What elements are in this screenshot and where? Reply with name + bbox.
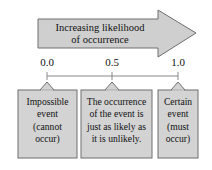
impossible-event-line-1: Impossible: [18, 96, 77, 108]
pointer-triangle-right: [171, 82, 185, 90]
impossible-event-line-2: event: [18, 108, 77, 120]
equally-likely-event-line-3: just as likely as: [81, 121, 152, 133]
tick-label-5: 0.5: [96, 56, 128, 68]
certain-event-line-2: event: [158, 108, 198, 120]
impossible-event-line-4: occur): [18, 133, 77, 145]
certain-event-line-4: occur): [158, 133, 198, 145]
probability-scale-figure: Increasing likelihood of occurrence 0.0 …: [0, 0, 212, 170]
impossible-event-text: Impossible event (cannot occur): [18, 96, 77, 146]
equally-likely-event-line-4: it is unlikely.: [81, 133, 152, 145]
pointer-triangle-middle: [105, 82, 119, 90]
equally-likely-event-line-1: The occurrence: [81, 96, 152, 108]
impossible-event-line-3: (cannot: [18, 121, 77, 133]
arrow-caption: Increasing likelihood of occurrence: [40, 22, 160, 45]
arrow-caption-line-1: Increasing likelihood: [40, 22, 160, 34]
arrow-caption-line-2: of occurrence: [40, 34, 160, 46]
certain-event-text: Certain event (must occur): [158, 96, 198, 146]
equally-likely-event-line-2: of the event is: [81, 108, 152, 120]
certain-event-line-3: (must: [158, 121, 198, 133]
certain-event-line-1: Certain: [158, 96, 198, 108]
tick-label-0: 0.0: [31, 56, 63, 68]
equally-likely-event-text: The occurrence of the event is just as l…: [81, 96, 152, 146]
tick-label-1: 1.0: [162, 56, 194, 68]
pointer-triangle-left: [40, 82, 54, 90]
